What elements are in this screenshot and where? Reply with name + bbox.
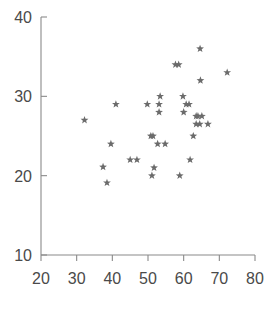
y-tick-label-30: 30 (14, 88, 32, 105)
data-point (81, 116, 89, 123)
y-tick-label-20: 20 (14, 168, 32, 185)
x-tick-label-70: 70 (210, 270, 228, 287)
plot-canvas: 20304050607080 10203040 (0, 0, 266, 314)
data-point (186, 156, 194, 163)
data-point (154, 140, 162, 147)
y-axis-tick-labels: 10203040 (14, 9, 32, 264)
data-point (196, 45, 204, 52)
data-point (103, 179, 111, 186)
x-tick-label-30: 30 (68, 270, 86, 287)
x-axis-ticks (41, 255, 255, 261)
data-point (156, 92, 164, 99)
data-point (150, 164, 158, 171)
data-point (143, 100, 151, 107)
x-tick-label-20: 20 (32, 270, 50, 287)
data-point (148, 172, 156, 179)
data-point (176, 172, 184, 179)
x-tick-label-40: 40 (103, 270, 121, 287)
data-point (133, 156, 141, 163)
data-point (223, 68, 231, 75)
data-point (126, 156, 134, 163)
data-point (149, 132, 157, 139)
x-tick-label-60: 60 (175, 270, 193, 287)
axes-group (41, 17, 255, 255)
data-point (155, 100, 163, 107)
y-tick-label-40: 40 (14, 9, 32, 26)
data-point (180, 108, 188, 115)
data-point (189, 132, 197, 139)
y-axis-ticks (41, 17, 47, 255)
data-point-markers (81, 45, 231, 186)
data-point (197, 76, 205, 83)
data-point (99, 163, 107, 170)
data-point (179, 92, 187, 99)
data-point (107, 140, 115, 147)
data-point (155, 108, 163, 115)
data-point (161, 140, 169, 147)
x-tick-label-50: 50 (139, 270, 157, 287)
x-tick-label-80: 80 (246, 270, 264, 287)
data-point (112, 100, 120, 107)
data-point (175, 61, 183, 68)
x-axis-tick-labels: 20304050607080 (32, 270, 264, 287)
data-point (204, 120, 212, 127)
scatter-plot-figure: 20304050607080 10203040 (0, 0, 266, 314)
y-tick-label-10: 10 (14, 247, 32, 264)
